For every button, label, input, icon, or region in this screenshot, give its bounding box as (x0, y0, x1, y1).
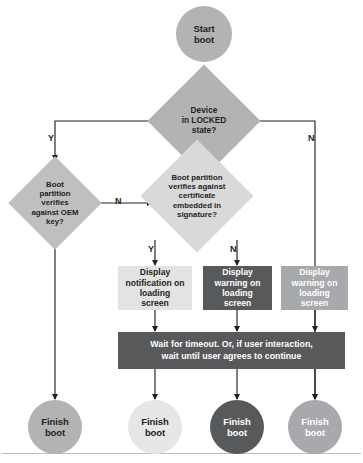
flowchart-canvas: Start boot Device in LOCKED state? Boot … (0, 0, 363, 463)
node-decision-certificate-label: Boot partition verifies against certific… (169, 173, 226, 220)
node-wait-bar[interactable]: Wait for timeout. Or, if user interactio… (118, 332, 345, 369)
node-start-boot[interactable]: Start boot (176, 6, 232, 62)
node-decision-certificate[interactable]: Boot partition verifies against certific… (157, 156, 237, 236)
node-finish-boot-2-label: Finish boot (141, 416, 168, 438)
edge-label-oem-no: N (115, 197, 122, 206)
edge-label-cert-yes: Y (148, 245, 154, 254)
node-start-boot-label: Start boot (193, 23, 214, 45)
edge-locked-yes (55, 121, 148, 160)
node-display-warning-dark-label: Display warning on loading screen (215, 267, 261, 309)
node-finish-boot-1-label: Finish boot (41, 416, 68, 438)
node-decision-locked-label: Device in LOCKED state? (182, 106, 227, 136)
node-finish-boot-1[interactable]: Finish boot (28, 400, 82, 454)
node-display-notification[interactable]: Display notification on loading screen (118, 266, 192, 310)
node-display-warning-gray-label: Display warning on loading screen (292, 267, 338, 309)
edge-label-locked-yes: Y (48, 134, 54, 143)
node-finish-boot-4[interactable]: Finish boot (288, 400, 342, 454)
node-display-warning-dark[interactable]: Display warning on loading screen (203, 266, 272, 310)
node-wait-bar-label: Wait for timeout. Or, if user interactio… (150, 339, 312, 363)
node-finish-boot-3-label: Finish boot (223, 416, 250, 438)
node-display-notification-label: Display notification on loading screen (125, 267, 184, 309)
node-finish-boot-2[interactable]: Finish boot (128, 400, 182, 454)
node-display-warning-gray[interactable]: Display warning on loading screen (281, 266, 348, 310)
node-decision-oem-key-label: Boot partition verifies against OEM key? (31, 180, 78, 227)
node-finish-boot-3[interactable]: Finish boot (210, 400, 264, 454)
edge-label-locked-no: N (308, 134, 315, 143)
node-decision-oem-key[interactable]: Boot partition verifies against OEM key? (22, 170, 88, 236)
node-finish-boot-4-label: Finish boot (301, 416, 328, 438)
edge-label-cert-no: N (230, 245, 237, 254)
